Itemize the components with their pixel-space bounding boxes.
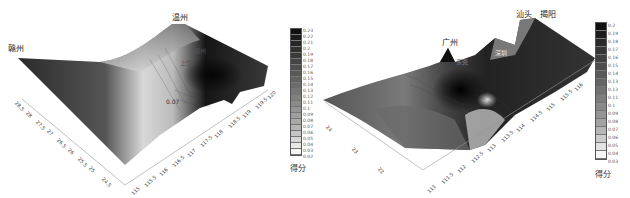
colorbar-tick: 0.16: [303, 71, 313, 76]
colorbar-tick: 0.18: [303, 59, 313, 64]
city-label-shantou: 汕头: [516, 8, 532, 19]
colorbar-tick: 0.09: [303, 113, 313, 118]
colorbar-tick: 0.04: [608, 152, 618, 157]
colorbar-scale: [290, 28, 302, 156]
colorbar-tick: 0.23: [303, 29, 313, 34]
colorbar-tick: 0.16: [608, 56, 618, 61]
colorbar-tick: 0.18: [608, 40, 618, 45]
colorbar-tick: 0.06: [303, 131, 313, 136]
colorbar-tick: 0.03: [303, 149, 313, 154]
colorbar-right: 0.2 0.19 0.18 0.17 0.16 0.15 0.14 0.13 0…: [595, 22, 630, 192]
colorbar-tick: 0.13: [608, 80, 618, 85]
colorbar-tick: 0.17: [303, 65, 313, 70]
colorbar-tick: 0.14: [608, 72, 618, 77]
colorbar-tick: 0.19: [303, 53, 313, 58]
city-label-dongguan: 东莞: [456, 57, 468, 66]
colorbar-title: 得分: [595, 168, 611, 179]
colorbar-tick: 0.15: [303, 77, 313, 82]
colorbar-tick: 0.11: [303, 101, 313, 106]
colorbar-tick: 0.1: [303, 107, 310, 112]
colorbar-tick: 0.19: [608, 32, 618, 37]
city-label-fuzhou: 福州: [194, 46, 206, 55]
colorbar-tick: 0.12: [608, 88, 618, 93]
colorbar-tick: 0.07: [608, 128, 618, 133]
colorbar-tick: 0.11: [608, 96, 618, 101]
colorbar-tick: 0.12: [303, 95, 313, 100]
colorbar-tick: 0.05: [303, 137, 313, 142]
colorbar-tick: 0.05: [608, 144, 618, 149]
colorbar-tick: 0.03: [608, 160, 618, 165]
city-label-shenzhen: 深圳: [495, 48, 507, 57]
colorbar-tick: 0.1: [608, 104, 615, 109]
colorbar-scale: [595, 22, 607, 160]
colorbar-tick: 0.08: [303, 119, 313, 124]
colorbar-tick: 0.09: [608, 112, 618, 117]
colorbar-tick: 0.15: [608, 64, 618, 69]
colorbar-tick: 0.22: [303, 35, 313, 40]
contour-label: 0.07: [166, 98, 179, 105]
colorbar-tick: 0.02: [303, 155, 313, 160]
right-surface-chart: 广州 东莞 深圳 汕头 揭阳 24 23 22 111 111.5 112 11…: [315, 0, 630, 198]
colorbar-tick: 0.17: [608, 48, 618, 53]
colorbar-tick: 0.2: [303, 47, 310, 52]
city-label-ganzhou: 赣州: [8, 42, 24, 53]
colorbar-tick: 0.21: [303, 41, 313, 46]
colorbar-tick: 0.13: [303, 89, 313, 94]
city-label-jieyang: 揭阳: [540, 8, 556, 19]
colorbar-tick: 0.08: [608, 120, 618, 125]
city-label-guangzhou: 广州: [442, 36, 458, 47]
colorbar-tick: 0.04: [303, 143, 313, 148]
colorbar-tick: 0.07: [303, 125, 313, 130]
right-surface-plot: [315, 0, 630, 198]
city-label-wenzhou: 温州: [172, 11, 188, 22]
colorbar-tick: 0.2: [608, 24, 615, 29]
colorbar-title: 得分: [290, 162, 306, 173]
colorbar-tick: 0.06: [608, 136, 618, 141]
colorbar-tick: 0.14: [303, 83, 313, 88]
city-label-shangrao: 上饶: [180, 58, 192, 67]
left-surface-chart: 赣州 温州 福州 上饶 0.07 28.5 28 27.5 27 26.5 26…: [0, 0, 315, 198]
